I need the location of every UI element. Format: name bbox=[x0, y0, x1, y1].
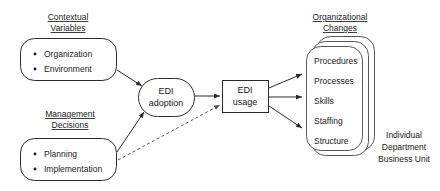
caption-line3: Business Unit bbox=[378, 154, 431, 164]
management-item-0: Planning bbox=[44, 149, 77, 159]
edi-usage-line1: EDI bbox=[237, 85, 252, 95]
change-item-1: Processes bbox=[314, 76, 354, 86]
connector-management-to-adoption bbox=[117, 112, 144, 152]
organizational-heading-line1: Organizational bbox=[313, 12, 368, 22]
management-heading-line2: Decisions bbox=[52, 120, 89, 130]
organizational-changes-stack[interactable]: Procedures Processes Skills Staffing Str… bbox=[307, 37, 375, 156]
diagram-canvas: Contextual Variables Organization Enviro… bbox=[0, 0, 440, 191]
management-decisions-heading: Management Decisions bbox=[45, 109, 95, 130]
management-item-1: Implementation bbox=[44, 164, 102, 174]
edi-adoption-node[interactable]: EDI adoption bbox=[139, 79, 195, 117]
edi-usage-line2: usage bbox=[233, 97, 258, 107]
caption-line1: Individual bbox=[386, 130, 422, 140]
management-heading-line1: Management bbox=[45, 109, 95, 119]
change-item-0: Procedures bbox=[314, 56, 357, 66]
organizational-heading-line2: Changes bbox=[323, 23, 357, 33]
contextual-heading-line1: Contextual bbox=[48, 12, 89, 22]
edi-adoption-line2: adoption bbox=[149, 98, 184, 108]
caption-line2: Department bbox=[382, 142, 427, 152]
contextual-item-1: Environment bbox=[44, 64, 92, 74]
contextual-item-0: Organization bbox=[44, 49, 92, 59]
edi-usage-node[interactable]: EDI usage bbox=[223, 81, 269, 113]
connector-contextual-to-adoption bbox=[117, 70, 142, 86]
change-item-3: Staffing bbox=[314, 116, 343, 126]
edi-adoption-line1: EDI bbox=[158, 86, 173, 96]
change-item-4: Structure bbox=[314, 136, 349, 146]
scope-caption: Individual Department Business Unit bbox=[378, 130, 431, 164]
bullet-icon bbox=[34, 153, 37, 156]
edi-model-diagram: Contextual Variables Organization Enviro… bbox=[0, 0, 440, 191]
bullet-icon bbox=[34, 168, 37, 171]
bullet-icon bbox=[34, 68, 37, 71]
contextual-variables-heading: Contextual Variables bbox=[48, 12, 89, 33]
organizational-changes-heading: Organizational Changes bbox=[313, 12, 368, 33]
contextual-heading-line2: Variables bbox=[51, 23, 86, 33]
change-item-2: Skills bbox=[314, 96, 334, 106]
management-decisions-box[interactable]: Planning Implementation bbox=[21, 139, 117, 181]
contextual-box-outline bbox=[21, 39, 117, 81]
bullet-icon bbox=[34, 53, 37, 56]
connector-usage-to-changes-upper bbox=[269, 74, 302, 88]
management-box-outline bbox=[21, 139, 117, 181]
connector-usage-to-changes-lower bbox=[269, 106, 302, 128]
contextual-variables-box[interactable]: Organization Environment bbox=[21, 39, 117, 81]
